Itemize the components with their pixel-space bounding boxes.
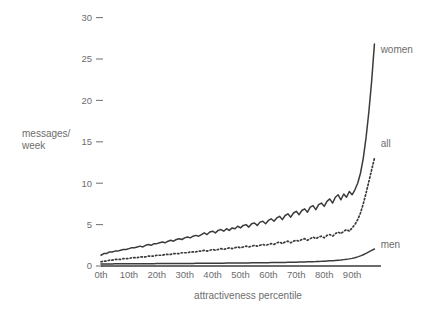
series-label-all: all: [381, 138, 391, 149]
x-tick-label: 30th: [175, 269, 194, 280]
y-axis-title-line1: messages/: [22, 128, 71, 139]
x-tick-label: 10th: [120, 269, 139, 280]
attractiveness-messages-line-chart: 051015202530 0th10th20th30th40th50th60th…: [0, 0, 441, 320]
series-group: [101, 44, 374, 264]
y-tick-label: 30: [81, 12, 92, 23]
y-tick-label: 0: [87, 260, 92, 271]
y-tick-label: 5: [87, 219, 92, 230]
y-tick-label: 20: [81, 95, 92, 106]
series-label-men: men: [381, 239, 400, 250]
x-axis-title: attractiveness percentile: [194, 290, 302, 301]
y-axis-title-line2: week: [21, 140, 46, 151]
series-label-women: women: [380, 44, 413, 55]
chart-container: 051015202530 0th10th20th30th40th50th60th…: [0, 0, 441, 320]
x-tick-label: 50th: [231, 269, 250, 280]
y-tick-label: 15: [81, 136, 92, 147]
x-tick-label: 20th: [148, 269, 167, 280]
x-tick-label: 90th: [343, 269, 362, 280]
series-line-women: [101, 44, 374, 255]
x-tick-label: 0th: [94, 269, 107, 280]
y-tick-label: 25: [81, 53, 92, 64]
y-tick-label: 10: [81, 178, 92, 189]
x-tick-label: 60th: [259, 269, 278, 280]
x-tick-label: 80th: [315, 269, 334, 280]
series-label-group: womenallmen: [380, 44, 413, 250]
y-axis-tick-group: 051015202530: [81, 12, 103, 271]
x-tick-label: 70th: [287, 269, 306, 280]
x-axis-tick-group: 0th10th20th30th40th50th60th70th80th90th: [94, 269, 361, 280]
x-tick-label: 40th: [203, 269, 222, 280]
